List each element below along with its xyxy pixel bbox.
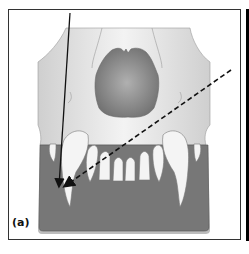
skull-diagram [0,0,249,254]
panel-label: (a) [12,216,29,229]
nasal-cavity [95,48,159,117]
